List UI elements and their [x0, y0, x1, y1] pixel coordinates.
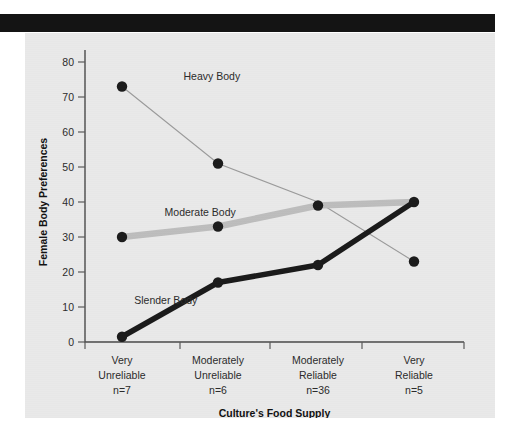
data-point-moderate-body-2	[313, 200, 323, 210]
line-chart: 01020304050607080Heavy BodyModerate Body…	[25, 33, 495, 418]
x-axis-category-label-3: Reliable	[395, 369, 433, 381]
y-axis-tick-label: 20	[62, 266, 74, 278]
y-axis-tick-label: 50	[62, 161, 74, 173]
x-axis-category-label-3: n=5	[405, 384, 423, 396]
y-axis-tick-label: 80	[62, 56, 74, 68]
chart-panel: 01020304050607080Heavy BodyModerate Body…	[25, 33, 495, 418]
x-axis-title: Culture's Food Supply	[219, 407, 331, 418]
data-point-slender-body-0	[117, 332, 127, 342]
header-black-bar	[0, 14, 495, 32]
x-axis-category-label-3: Very	[403, 354, 425, 366]
data-point-heavy-body-0	[117, 81, 127, 91]
y-axis-tick-label: 40	[62, 196, 74, 208]
y-axis-title: Female Body Preferences	[37, 138, 49, 267]
x-axis-category-label-2: Reliable	[299, 369, 337, 381]
series-line-slender-body	[122, 202, 414, 337]
y-axis-tick-label: 30	[62, 231, 74, 243]
series-label-slender-body: Slender Body	[134, 294, 198, 306]
y-axis-tick-label: 70	[62, 91, 74, 103]
data-point-heavy-body-1	[213, 158, 223, 168]
data-point-slender-body-3	[409, 197, 419, 207]
data-point-heavy-body-3	[409, 256, 419, 266]
x-axis-category-label-0: Very	[111, 354, 133, 366]
x-axis-category-label-2: n=36	[306, 384, 330, 396]
x-axis-category-label-1: n=6	[209, 384, 227, 396]
data-point-moderate-body-1	[213, 221, 223, 231]
x-axis-category-label-1: Unreliable	[194, 369, 241, 381]
data-point-slender-body-1	[213, 277, 223, 287]
x-axis-category-label-2: Moderately	[292, 354, 345, 366]
x-axis-category-label-1: Moderately	[192, 354, 245, 366]
series-label-heavy-body: Heavy Body	[184, 70, 241, 82]
y-axis-tick-label: 0	[68, 336, 74, 348]
y-axis-tick-label: 10	[62, 301, 74, 313]
figure-root: 01020304050607080Heavy BodyModerate Body…	[0, 0, 515, 433]
x-axis-category-label-0: n=7	[113, 384, 131, 396]
data-point-slender-body-2	[313, 260, 323, 270]
series-label-moderate-body: Moderate Body	[165, 206, 237, 218]
y-axis-tick-label: 60	[62, 126, 74, 138]
data-point-moderate-body-0	[117, 232, 127, 242]
x-axis-category-label-0: Unreliable	[98, 369, 145, 381]
